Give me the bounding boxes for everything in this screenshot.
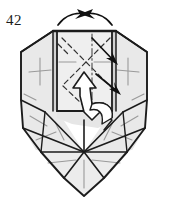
top-converging-arrows <box>58 9 112 25</box>
origami-model-drawing <box>0 0 169 216</box>
origami-diagram-figure: 42 <box>0 0 169 216</box>
right-wing-panel <box>112 32 147 112</box>
left-wing-panel <box>21 32 57 112</box>
